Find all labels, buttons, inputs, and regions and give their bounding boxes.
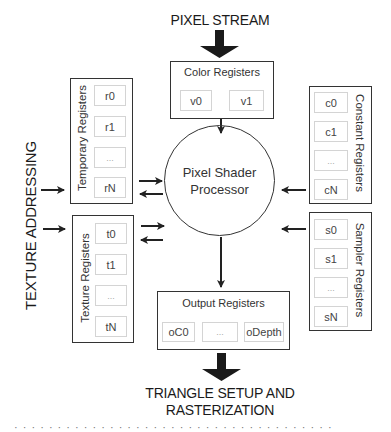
- output-registers-title: Output Registers: [158, 297, 289, 309]
- rasterization-arrow-icon: [202, 353, 241, 381]
- pixel-shader-processor: Pixel Shader Processor: [164, 125, 275, 236]
- temporary-registers-box: Temporary Registers r0 r1 ... rN: [70, 78, 133, 204]
- register-cell-ellipsis: ...: [202, 322, 238, 342]
- register-cell-c0: c0: [314, 92, 348, 113]
- triangle-setup-label: TRIANGLE SETUP AND RASTERIZATION: [120, 385, 320, 419]
- register-cell-t1: t1: [95, 254, 127, 275]
- register-cell-ellipsis: ...: [314, 277, 348, 298]
- register-cell-v0: v0: [180, 90, 212, 111]
- register-cell-v1: v1: [229, 90, 264, 111]
- register-cell-ellipsis: ...: [314, 150, 348, 171]
- register-cell-r1: r1: [94, 116, 126, 137]
- sampler-registers-box: Sampler Registers s0 s1 ... sN: [309, 212, 372, 331]
- register-cell-cn: cN: [314, 179, 348, 200]
- register-cell-r0: r0: [94, 85, 126, 106]
- color-registers-box: Color Registers v0 v1: [170, 61, 274, 119]
- register-cell-t0: t0: [95, 223, 127, 244]
- register-cell-sn: sN: [314, 306, 348, 327]
- register-cell-s0: s0: [314, 219, 348, 240]
- register-cell-rn: rN: [94, 177, 126, 198]
- register-cell-odepth: oDepth: [244, 322, 284, 342]
- triangle-setup-label-line2: RASTERIZATION: [120, 402, 320, 419]
- constant-registers-title: Constant Registers: [354, 88, 366, 198]
- register-cell-ellipsis: ...: [95, 285, 127, 306]
- register-cell-ellipsis: ...: [94, 147, 126, 168]
- pixel-stream-label: PIXEL STREAM: [140, 12, 300, 28]
- processor-label-line1: Pixel Shader: [183, 164, 257, 181]
- texture-registers-title: Texture Registers: [79, 223, 91, 333]
- texture-addressing-label: TEXTURE ADDRESSING: [22, 136, 39, 316]
- sampler-registers-title: Sampler Registers: [354, 215, 366, 325]
- pixel-stream-arrow-icon: [200, 30, 239, 58]
- register-cell-s1: s1: [314, 248, 348, 269]
- processor-label-line2: Processor: [190, 181, 249, 198]
- constant-registers-box: Constant Registers c0 c1 ... cN: [309, 86, 372, 204]
- register-cell-oc0: oC0: [162, 322, 195, 342]
- register-cell-tn: tN: [95, 316, 127, 337]
- register-cell-c1: c1: [314, 121, 348, 142]
- color-registers-title: Color Registers: [171, 66, 273, 78]
- caption-fragment: · · · · · · · · · · · · · · · · · · · · …: [0, 427, 391, 432]
- triangle-setup-label-line1: TRIANGLE SETUP AND: [120, 385, 320, 402]
- texture-registers-box: Texture Registers t0 t1 ... tN: [72, 215, 134, 343]
- temporary-registers-title: Temporary Registers: [76, 83, 88, 193]
- output-registers-box: Output Registers oC0 ... oDepth: [157, 291, 290, 350]
